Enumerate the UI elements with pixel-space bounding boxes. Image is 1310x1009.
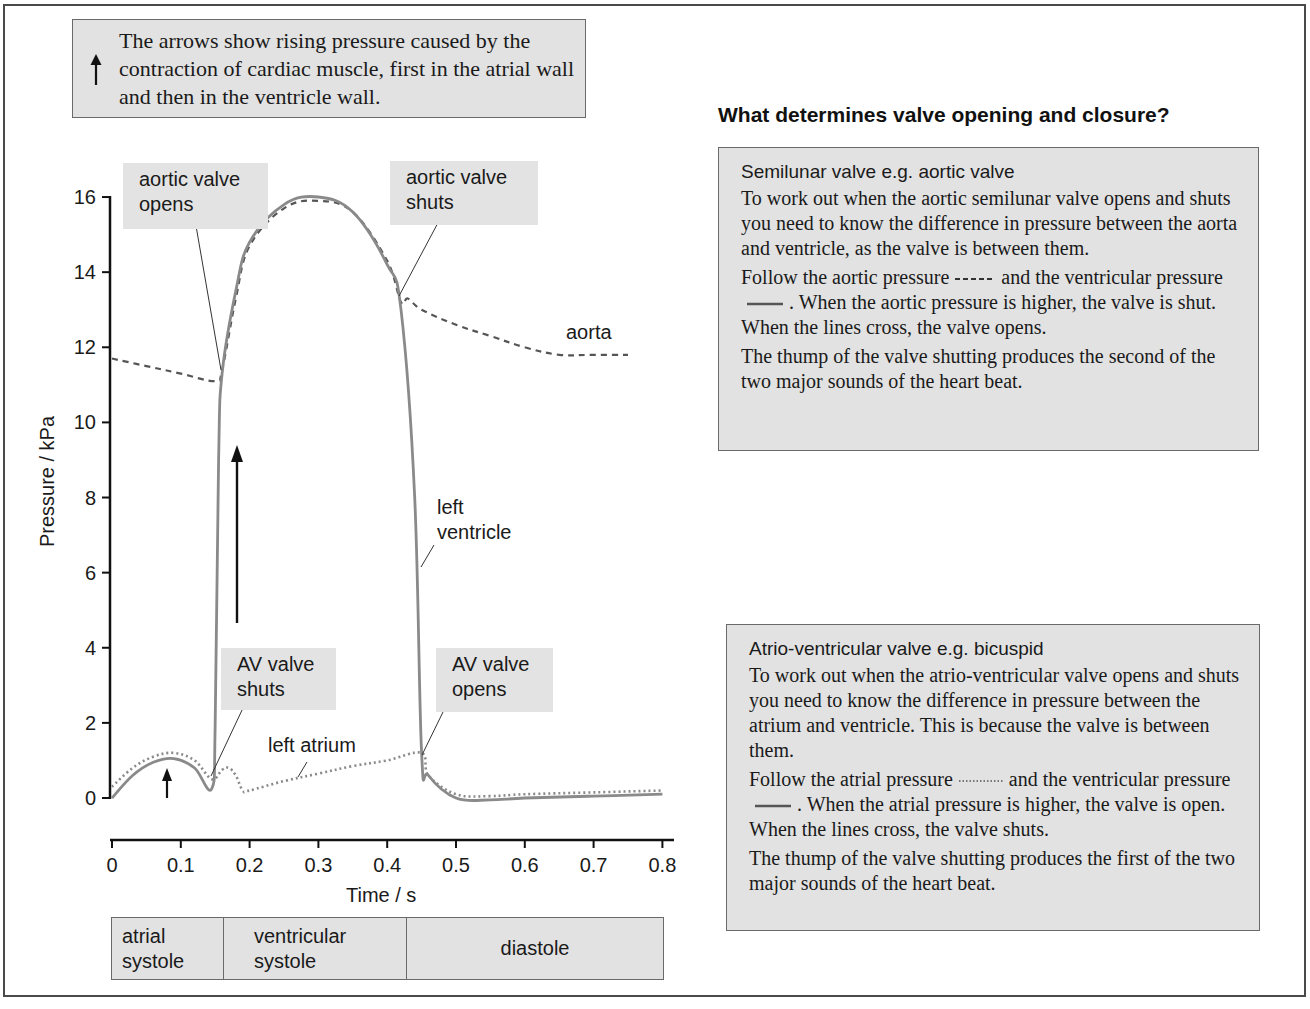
cardiac-phase-bar: atrial systole ventricular systole diast… <box>111 917 664 980</box>
atrial-contraction-arrow-icon <box>162 768 172 798</box>
semilunar-title: Semilunar valve e.g. aortic valve <box>741 160 1240 184</box>
phase-label: ventricular <box>254 924 396 949</box>
y-tick-label: 4 <box>85 637 96 659</box>
left-atrium-label: left atrium <box>268 733 356 758</box>
callout-av-valve-shuts: AV valve shuts <box>221 648 336 710</box>
x-tick-label: 0.1 <box>167 854 195 876</box>
aorta-label: aorta <box>566 320 612 345</box>
para-text: . When the atrial pressure is higher, th… <box>749 793 1225 840</box>
y-axis-title: Pressure / kPa <box>36 412 59 552</box>
x-tick-label: 0.7 <box>580 854 608 876</box>
y-tick-label: 12 <box>74 336 96 358</box>
para-text: Follow the aortic pressure <box>741 266 949 288</box>
x-tick-label: 0.8 <box>648 854 676 876</box>
left-ventricle-label: left ventricle <box>437 495 511 545</box>
callout-line: opens <box>452 677 537 702</box>
semilunar-para3: The thump of the valve shutting produces… <box>741 344 1240 394</box>
semilunar-valve-box: Semilunar valve e.g. aortic valve To wor… <box>718 147 1259 451</box>
callout-av-valve-opens: AV valve opens <box>436 648 553 712</box>
phase-atrial-systole: atrial systole <box>112 918 224 979</box>
x-axis-title: Time / s <box>346 884 416 907</box>
y-tick-label: 6 <box>85 562 96 584</box>
left-ventricle-series <box>112 196 662 800</box>
av-para1: To work out when the atrio-ventricular v… <box>749 663 1241 763</box>
y-tick-label: 0 <box>85 787 96 809</box>
x-tick-label: 0.4 <box>373 854 401 876</box>
y-axis: 0246810121416 <box>74 186 110 809</box>
y-tick-label: 14 <box>74 261 96 283</box>
semilunar-para2: Follow the aortic pressureand the ventri… <box>741 265 1240 340</box>
y-tick-label: 10 <box>74 411 96 433</box>
x-tick-label: 0.3 <box>304 854 332 876</box>
phase-label: systole <box>254 949 396 974</box>
dashed-line-legend-icon <box>955 276 995 282</box>
phase-label: atrial <box>122 924 213 949</box>
phase-label: systole <box>122 949 213 974</box>
dotted-line-legend-icon <box>959 778 1003 784</box>
phase-label: diastole <box>501 936 570 961</box>
av-title: Atrio-ventricular valve e.g. bicuspid <box>749 637 1241 661</box>
para-text: and the ventricular pressure <box>1009 768 1231 790</box>
semilunar-para1: To work out when the aortic semilunar va… <box>741 186 1240 261</box>
right-panel-heading: What determines valve opening and closur… <box>718 103 1170 127</box>
callout-line: aortic valve <box>406 165 522 190</box>
y-tick-label: 2 <box>85 712 96 734</box>
solid-line-legend-icon <box>747 301 783 307</box>
x-axis: 00.10.20.30.40.50.60.70.8 <box>106 840 676 876</box>
para-text: and the ventricular pressure <box>1001 266 1223 288</box>
x-tick-label: 0.6 <box>511 854 539 876</box>
x-tick-label: 0.2 <box>236 854 264 876</box>
callout-line: shuts <box>237 677 320 702</box>
callout-line: opens <box>139 192 252 217</box>
solid-line-legend-icon <box>755 803 791 809</box>
left-atrium-series <box>112 752 662 796</box>
callout-line: shuts <box>406 190 522 215</box>
callout-line: AV valve <box>237 652 320 677</box>
callout-aortic-valve-opens: aortic valve opens <box>123 163 268 229</box>
callout-aortic-valve-shuts: aortic valve shuts <box>390 161 538 225</box>
phase-ventricular-systole: ventricular systole <box>224 918 407 979</box>
pressure-chart: 0246810121416 00.10.20.30.40.50.60.70.8 <box>0 0 700 1009</box>
x-tick-label: 0 <box>106 854 117 876</box>
av-para3: The thump of the valve shutting produces… <box>749 846 1241 896</box>
callout-line: aortic valve <box>139 167 252 192</box>
label-line: ventricle <box>437 520 511 545</box>
label-line: left <box>437 495 511 520</box>
x-tick-label: 0.5 <box>442 854 470 876</box>
y-tick-label: 8 <box>85 487 96 509</box>
ventricular-contraction-arrow-icon <box>231 445 243 623</box>
para-text: . When the aortic pressure is higher, th… <box>741 291 1216 338</box>
y-tick-label: 16 <box>74 186 96 208</box>
callout-line: AV valve <box>452 652 537 677</box>
av-valve-box: Atrio-ventricular valve e.g. bicuspid To… <box>726 624 1260 931</box>
phase-diastole: diastole <box>407 918 663 979</box>
av-para2: Follow the atrial pressureand the ventri… <box>749 767 1241 842</box>
para-text: Follow the atrial pressure <box>749 768 953 790</box>
